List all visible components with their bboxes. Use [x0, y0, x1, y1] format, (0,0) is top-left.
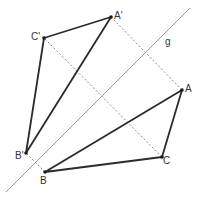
label-point-b: B — [40, 176, 47, 186]
label-point-a: A — [185, 84, 192, 94]
diagram-svg — [0, 0, 202, 200]
label-point-c: C — [163, 156, 170, 166]
diagram-canvas: g A B C A' B' C' — [0, 0, 202, 200]
label-point-c-prime: C' — [31, 32, 40, 42]
triangle — [45, 90, 182, 172]
point-marker — [109, 15, 113, 19]
label-g: g — [165, 37, 171, 47]
label-point-b-prime: B' — [15, 151, 24, 161]
dashed-connector — [111, 17, 182, 90]
point-marker — [42, 36, 46, 40]
label-point-a-prime: A' — [114, 11, 123, 21]
point-marker — [180, 88, 184, 92]
point-marker — [24, 151, 28, 155]
point-marker — [43, 170, 47, 174]
